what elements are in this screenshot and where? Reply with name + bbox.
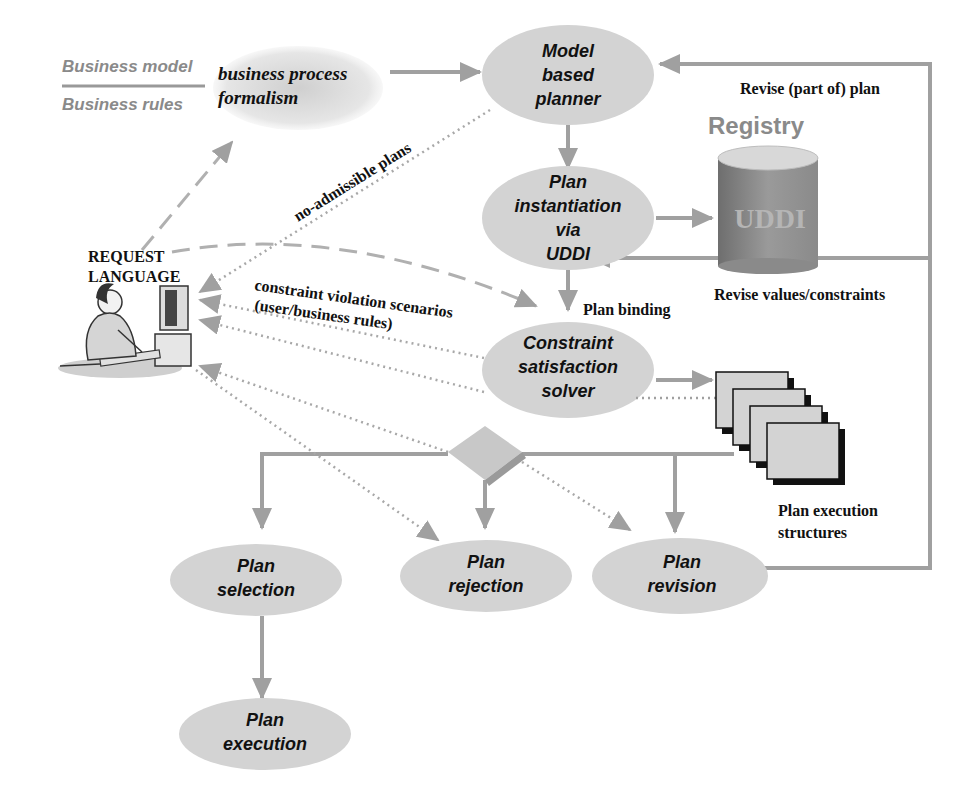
request-label-1: REQUEST xyxy=(88,248,165,265)
revision-text-2: revision xyxy=(647,576,716,596)
instantiation-text-1: Plan xyxy=(549,172,587,192)
execution-text-2: execution xyxy=(223,734,307,754)
solver-text-3: solver xyxy=(541,381,595,401)
structures-label-1: Plan execution xyxy=(778,502,878,519)
plan-revision-node[interactable]: Plan revision xyxy=(592,538,768,614)
instantiation-text-2: instantiation xyxy=(515,196,622,216)
user-at-computer-icon xyxy=(58,283,191,378)
business-legend: Business model Business rules xyxy=(62,57,205,114)
instantiation-text-4: UDDI xyxy=(546,244,591,264)
request-label-2: LANGUAGE xyxy=(88,268,180,285)
registry: Registry UDDI xyxy=(708,112,818,274)
business-rules-label: Business rules xyxy=(62,95,183,114)
decision-to-revision-arrow xyxy=(522,462,630,530)
cylinder-bottom xyxy=(718,258,818,274)
selection-text-2: selection xyxy=(217,580,295,600)
planner-text-1: Model xyxy=(542,41,595,61)
uddi-label: UDDI xyxy=(734,203,806,234)
plan-instantiation-node[interactable]: Plan instantiation via UDDI xyxy=(482,166,654,270)
decision-to-user-arrow xyxy=(200,366,448,452)
solver-text-2: satisfaction xyxy=(518,357,618,377)
plan-binding-label: Plan binding xyxy=(583,301,671,319)
instantiation-text-3: via xyxy=(555,220,580,240)
diamond-shape xyxy=(448,426,522,480)
execution-text-1: Plan xyxy=(246,710,284,730)
registry-title: Registry xyxy=(708,112,805,139)
structures-label-2: structures xyxy=(778,524,847,541)
rejection-text-1: Plan xyxy=(467,552,505,572)
plan-rejection-node[interactable]: Plan rejection xyxy=(400,540,572,612)
no-admissible-arrow xyxy=(200,110,490,292)
no-admissible-label: no-admissible plans xyxy=(291,139,415,226)
model-based-planner-node[interactable]: Model based planner xyxy=(482,25,654,125)
cloud-text-line1: business process xyxy=(218,63,347,84)
planner-text-3: planner xyxy=(534,89,601,109)
revise-plan-connector xyxy=(660,64,930,568)
plan-selection-node[interactable]: Plan selection xyxy=(170,544,342,616)
user-to-cloud-arrow xyxy=(142,142,232,250)
cloud-text-line2: formalism xyxy=(218,87,298,108)
decision-diamond[interactable] xyxy=(448,426,526,486)
cylinder-top xyxy=(718,146,818,170)
revise-values-label: Revise values/constraints xyxy=(714,286,885,303)
to-selection-arrow xyxy=(262,454,448,528)
revise-plan-label: Revise (part of) plan xyxy=(740,80,880,98)
business-model-label: Business model xyxy=(62,57,194,76)
rejection-text-2: rejection xyxy=(448,576,523,596)
plan-execution-node[interactable]: Plan execution xyxy=(179,698,351,770)
workflow-diagram: Business model Business rules business p… xyxy=(0,0,979,807)
selection-text-1: Plan xyxy=(237,556,275,576)
constraint-solver-node[interactable]: Constraint satisfaction solver xyxy=(482,322,654,418)
planner-text-2: based xyxy=(542,65,595,85)
solver-text-1: Constraint xyxy=(523,333,614,353)
revision-text-1: Plan xyxy=(663,552,701,572)
request-language-user[interactable]: REQUEST LANGUAGE xyxy=(58,248,191,378)
uddi-cylinder[interactable]: UDDI xyxy=(718,146,818,274)
business-process-cloud: business process formalism xyxy=(213,46,383,130)
plan-execution-structures[interactable] xyxy=(716,372,845,485)
